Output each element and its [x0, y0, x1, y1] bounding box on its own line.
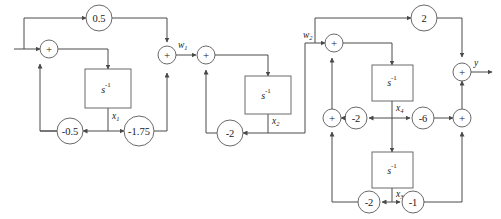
summer-sum-5-label: +: [329, 112, 335, 124]
wire-gain-neg2-to-sum3: [206, 70, 217, 133]
gain-x3-right-label: -1: [409, 197, 418, 208]
integrator-int3[interactable]: [372, 152, 413, 188]
summer-sum-6-label: +: [459, 112, 465, 124]
gain-top-right-label: 2: [421, 13, 426, 24]
wire-gain-x3-right-to-sum6: [424, 132, 462, 202]
flow-graph: + 0.5 s-1 x1 -0.5 -1.75 + w1 +: [0, 0, 501, 219]
signal-label-w1: w1: [178, 40, 188, 51]
summer-sum-1-label: +: [46, 43, 52, 55]
integrator-int4[interactable]: [372, 65, 413, 101]
block-diagram-canvas: + 0.5 s-1 x1 -0.5 -1.75 + w1 +: [0, 0, 501, 219]
wire-gain2-to-output-summer: [437, 18, 462, 57]
gain-x4-right-label: -6: [419, 113, 428, 124]
gain-mid-feedback-label: -2: [226, 128, 235, 139]
wire-gain-x3-left-to-sum5: [332, 132, 358, 202]
wire-sum3-to-int2: [215, 55, 268, 76]
summer-sum-7-label: +: [459, 66, 465, 78]
gain-x3-left-label: -2: [365, 197, 374, 208]
gain-feedback-a-label: -0.5: [62, 126, 79, 137]
gain-top-left-label: 0.5: [92, 13, 105, 24]
gain-feedback-b-label: -1.75: [128, 126, 150, 137]
signal-label-w2: w2: [303, 30, 313, 41]
summer-sum-3-label: +: [203, 49, 209, 61]
state-label-x4: x4: [395, 103, 404, 114]
summer-sum-2-label: +: [164, 49, 170, 61]
wire-gain05-to-sum3: [112, 18, 167, 42]
state-label-x2: x2: [271, 116, 280, 127]
state-label-x1: x1: [111, 111, 119, 122]
wire-sum1-to-int1: [58, 49, 108, 69]
signal-label-y: y: [473, 58, 479, 68]
wire-gain-neg05-to-sum1: [40, 64, 57, 131]
wire-sum4-to-int4: [343, 43, 392, 65]
integrator-int2[interactable]: [245, 76, 291, 114]
gain-x4-left-label: -2: [352, 113, 361, 124]
wire-gain-neg175-to-sum3: [152, 73, 167, 131]
summer-sum-4-label: +: [331, 37, 337, 49]
